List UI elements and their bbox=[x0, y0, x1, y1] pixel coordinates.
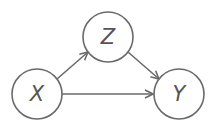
node-z: Z bbox=[83, 12, 133, 62]
edge-z-to-y bbox=[128, 52, 159, 79]
node-x-label: X bbox=[29, 82, 45, 106]
node-y-label: Y bbox=[173, 82, 188, 106]
node-x: X bbox=[12, 69, 62, 119]
node-y: Y bbox=[154, 69, 204, 119]
edge-x-to-z bbox=[57, 52, 88, 79]
node-z-label: Z bbox=[100, 25, 116, 49]
diagram-canvas: X Z Y bbox=[0, 0, 220, 127]
causal-diagram: X Z Y bbox=[0, 0, 220, 127]
